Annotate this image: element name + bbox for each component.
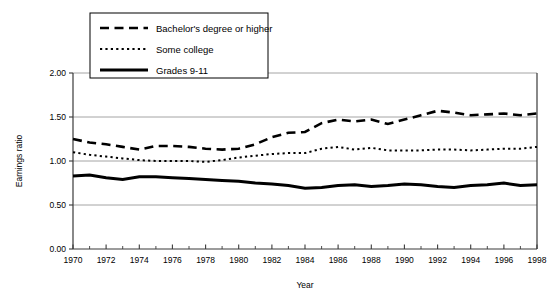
x-tick-label: 1998: [528, 255, 547, 265]
x-tick-label: 1992: [428, 255, 447, 265]
x-tick-label: 1988: [362, 255, 381, 265]
legend-label: Grades 9-11: [156, 65, 208, 76]
earnings-ratio-chart: 0.000.501.001.502.00 1970197219741976197…: [0, 0, 560, 302]
y-tick-label: 1.00: [49, 156, 66, 166]
legend-label: Bachelor's degree or higher: [156, 23, 272, 34]
x-tick-label: 1974: [130, 255, 149, 265]
y-tick-label: 1.50: [49, 112, 66, 122]
x-tick-label: 1978: [196, 255, 215, 265]
chart-canvas: 0.000.501.001.502.00 1970197219741976197…: [0, 0, 560, 302]
y-tick-label: 0.00: [49, 244, 66, 254]
x-axis-title: Year: [296, 280, 313, 290]
x-tick-label: 1996: [494, 255, 513, 265]
x-tick-label: 1982: [262, 255, 281, 265]
x-tick-label: 1980: [229, 255, 248, 265]
x-tick-label: 1984: [296, 255, 315, 265]
x-tick-label: 1972: [97, 255, 116, 265]
x-tick-label: 1994: [461, 255, 480, 265]
chart-legend: Bachelor's degree or higherSome collegeG…: [90, 13, 272, 78]
legend-label: Some college: [156, 44, 214, 55]
x-tick-label: 1970: [64, 255, 83, 265]
x-tick-label: 1986: [329, 255, 348, 265]
x-tick-label: 1976: [163, 255, 182, 265]
x-tick-label: 1990: [395, 255, 414, 265]
y-axis-title: Earnings ratio: [14, 135, 24, 188]
x-tick-labels: 1970197219741976197819801982198419861988…: [64, 255, 547, 265]
y-tick-label: 0.50: [49, 200, 66, 210]
y-tick-label: 2.00: [49, 68, 66, 78]
